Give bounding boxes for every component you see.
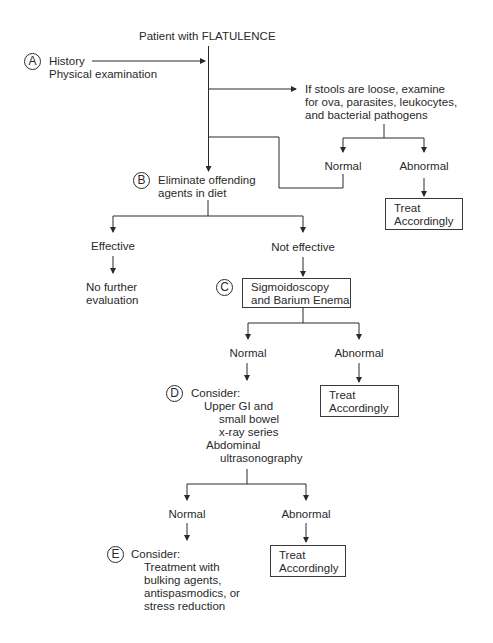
treat-line-2: Accordingly bbox=[394, 215, 462, 228]
step-a-physical-exam: Physical examination bbox=[49, 68, 157, 81]
c-treat-box: Treat Accordingly bbox=[320, 385, 399, 417]
step-marker-e: E bbox=[107, 546, 124, 563]
step-a-history: History bbox=[49, 55, 85, 68]
no-further-line-2: evaluation bbox=[86, 294, 138, 307]
stool-treat-box: Treat Accordingly bbox=[385, 198, 463, 230]
step-e-line-4: antispasmodics, or bbox=[144, 587, 240, 600]
stool-check-line-3: and bacterial pathogens bbox=[305, 109, 428, 122]
step-e-consider: Consider: bbox=[131, 548, 180, 561]
step-e-line-3: bulking agents, bbox=[144, 574, 221, 587]
flowchart-title: Patient with FLATULENCE bbox=[139, 30, 276, 43]
treat-line-2: Accordingly bbox=[329, 402, 398, 415]
step-d-line-3: small bowel bbox=[219, 413, 279, 426]
step-marker-b: B bbox=[133, 172, 150, 189]
d-abnormal-label: Abnormal bbox=[278, 508, 334, 521]
treat-line-1: Treat bbox=[394, 202, 462, 215]
treat-line-2: Accordingly bbox=[279, 562, 345, 575]
stool-abnormal-label: Abnormal bbox=[396, 160, 452, 173]
flatulence-flowchart: Patient with FLATULENCE A History Physic… bbox=[0, 0, 493, 643]
step-d-line-2: Upper GI and bbox=[204, 400, 273, 413]
step-d-line-5: Abdominal bbox=[206, 439, 260, 452]
step-d-line-4: x-ray series bbox=[219, 426, 278, 439]
treat-line-1: Treat bbox=[279, 549, 345, 562]
stool-normal-label: Normal bbox=[323, 160, 363, 173]
no-further-line-1: No further bbox=[86, 281, 137, 294]
effective-label: Effective bbox=[83, 240, 143, 253]
d-treat-box: Treat Accordingly bbox=[270, 545, 346, 577]
step-b-line-1: Eliminate offending bbox=[158, 174, 256, 187]
stool-check-line-2: for ova, parasites, leukocytes, bbox=[305, 96, 457, 109]
step-e-line-2: Treatment with bbox=[144, 561, 220, 574]
step-c-line-1: Sigmoidoscopy bbox=[251, 281, 350, 294]
c-abnormal-label: Abnormal bbox=[331, 347, 387, 360]
step-e-line-5: stress reduction bbox=[144, 600, 225, 613]
step-b-line-2: agents in diet bbox=[158, 187, 226, 200]
stool-check-line-1: If stools are loose, examine bbox=[305, 83, 445, 96]
step-marker-d: D bbox=[166, 385, 183, 402]
step-d-consider: Consider: bbox=[191, 387, 240, 400]
c-normal-label: Normal bbox=[227, 347, 269, 360]
sigmoidoscopy-box: Sigmoidoscopy and Barium Enema bbox=[242, 278, 351, 308]
step-d-line-6: ultrasonography bbox=[220, 452, 302, 465]
step-c-line-2: and Barium Enema bbox=[251, 294, 350, 307]
d-normal-label: Normal bbox=[166, 508, 208, 521]
treat-line-1: Treat bbox=[329, 389, 398, 402]
not-effective-label: Not effective bbox=[263, 241, 343, 254]
step-marker-c: C bbox=[216, 279, 233, 296]
step-marker-a: A bbox=[24, 53, 41, 70]
